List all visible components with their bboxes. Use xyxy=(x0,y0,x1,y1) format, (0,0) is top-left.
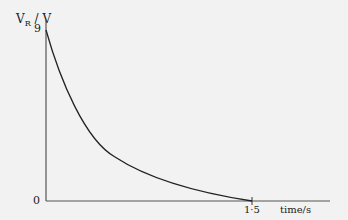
decay-curve xyxy=(46,30,252,201)
chart-plot xyxy=(0,0,348,220)
